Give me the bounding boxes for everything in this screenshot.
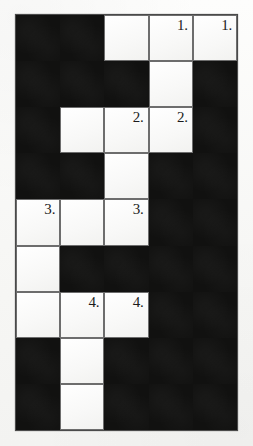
crossword-block <box>149 199 193 245</box>
crossword-cell[interactable] <box>149 61 193 107</box>
clue-number: 3. <box>44 202 55 217</box>
crossword-block <box>60 61 104 107</box>
crossword-block <box>104 338 148 384</box>
crossword-cell[interactable] <box>60 199 104 245</box>
crossword-block <box>193 384 237 430</box>
crossword-cell[interactable]: 4. <box>60 292 104 338</box>
crossword-cell[interactable] <box>60 107 104 153</box>
crossword-block <box>193 107 237 153</box>
clue-number: 2. <box>133 110 144 125</box>
crossword-cell[interactable] <box>104 15 148 61</box>
crossword-block <box>149 338 193 384</box>
crossword-cell[interactable]: 1. <box>193 15 237 61</box>
crossword-block <box>16 107 60 153</box>
crossword-block <box>16 15 60 61</box>
clue-number: 1. <box>221 18 232 33</box>
crossword-block <box>104 384 148 430</box>
clue-number: 1. <box>177 18 188 33</box>
clue-number: 4. <box>89 295 100 310</box>
crossword-block <box>104 61 148 107</box>
crossword-block <box>60 153 104 199</box>
crossword-cell[interactable] <box>60 384 104 430</box>
crossword-cell[interactable]: 2. <box>149 107 193 153</box>
crossword-block <box>149 384 193 430</box>
crossword-block <box>149 246 193 292</box>
crossword-cell[interactable] <box>104 153 148 199</box>
crossword-cell[interactable]: 2. <box>104 107 148 153</box>
crossword-block <box>16 153 60 199</box>
crossword-block <box>16 338 60 384</box>
crossword-block <box>16 61 60 107</box>
crossword-block <box>193 61 237 107</box>
clue-number: 2. <box>177 110 188 125</box>
crossword-block <box>193 292 237 338</box>
crossword-block <box>60 246 104 292</box>
crossword-cell[interactable]: 3. <box>104 199 148 245</box>
page-canvas: 1.1.2.2.3.3.4.4. <box>0 0 253 446</box>
crossword-cell[interactable]: 4. <box>104 292 148 338</box>
crossword-cell[interactable] <box>16 246 60 292</box>
crossword-block <box>193 246 237 292</box>
clue-number: 4. <box>133 295 144 310</box>
crossword-block <box>16 384 60 430</box>
crossword-block <box>193 338 237 384</box>
crossword-block <box>193 199 237 245</box>
clue-number: 3. <box>133 202 144 217</box>
crossword-block <box>149 292 193 338</box>
crossword-block <box>104 246 148 292</box>
crossword-grid[interactable]: 1.1.2.2.3.3.4.4. <box>15 14 238 431</box>
crossword-cell[interactable] <box>16 292 60 338</box>
crossword-cell[interactable] <box>60 338 104 384</box>
crossword-cell[interactable]: 3. <box>16 199 60 245</box>
crossword-cell[interactable]: 1. <box>149 15 193 61</box>
crossword-block <box>60 15 104 61</box>
crossword-block <box>193 153 237 199</box>
crossword-block <box>149 153 193 199</box>
